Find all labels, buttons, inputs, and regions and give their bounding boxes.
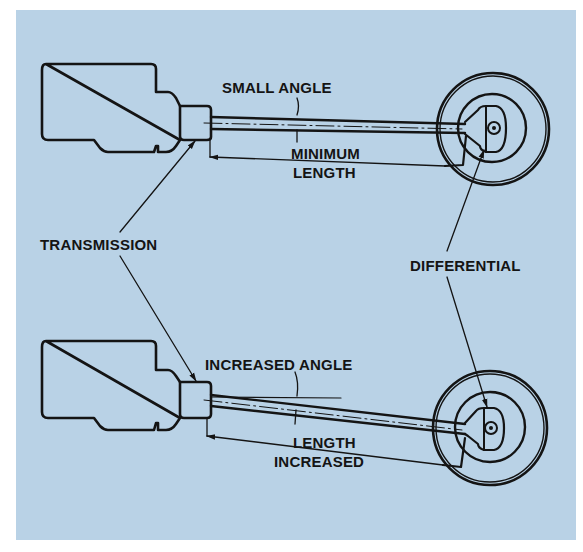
bottom-angle-leader <box>295 372 298 396</box>
driveshaft-angle-diagram: SMALL ANGLE MINIMUM LENGTH INCREASED <box>0 0 583 552</box>
bottom-length-label-line1: LENGTH <box>293 434 356 451</box>
top-angle-label: SMALL ANGLE <box>222 79 332 96</box>
top-rear-axle-wheel <box>437 73 549 185</box>
top-assembly: SMALL ANGLE MINIMUM LENGTH <box>42 64 549 185</box>
transmission-label: TRANSMISSION <box>40 236 157 253</box>
top-angle-leader <box>297 98 299 115</box>
top-length-label-line2: LENGTH <box>293 164 356 181</box>
bottom-angle-tick <box>295 410 296 424</box>
top-length-label-line1: MINIMUM <box>291 145 360 162</box>
differential-callout: DIFFERENTIAL <box>410 150 521 407</box>
top-driveshaft <box>204 117 465 133</box>
bottom-rear-axle-wheel <box>433 371 547 485</box>
bottom-angle-label: INCREASED ANGLE <box>205 356 352 373</box>
top-engine-outline <box>42 64 180 152</box>
bottom-engine-outline <box>42 341 180 430</box>
bottom-driveshaft <box>204 395 465 434</box>
bottom-assembly: INCREASED ANGLE LENGTH INCREASED <box>42 341 547 485</box>
differential-label: DIFFERENTIAL <box>410 257 521 274</box>
transmission-callout: TRANSMISSION <box>40 141 196 381</box>
bottom-length-label-line2: INCREASED <box>274 453 364 470</box>
